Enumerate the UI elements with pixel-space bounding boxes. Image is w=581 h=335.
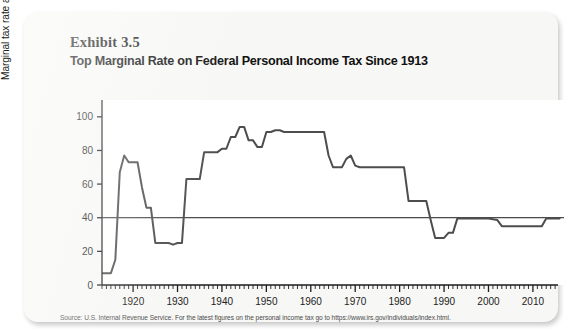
- x-tick-label: 1990: [433, 296, 456, 307]
- y-tick-label: 0: [87, 280, 93, 291]
- x-tick-label: 2000: [477, 296, 500, 307]
- y-tick-label: 20: [82, 246, 94, 257]
- source-note: Source: U.S. Internal Revenue Service. F…: [60, 314, 451, 321]
- y-tick-label: 40: [82, 212, 94, 223]
- x-tick-label: 1980: [389, 296, 412, 307]
- x-tick-label: 1950: [255, 296, 278, 307]
- tax-rate-line: [102, 127, 560, 273]
- chart-plot-area: [102, 100, 564, 285]
- exhibit-card: Exhibit 3.5 Top Marginal Rate on Federal…: [24, 12, 558, 322]
- exhibit-number-label: Exhibit 3.5: [70, 34, 140, 51]
- y-tick-label: 80: [82, 145, 94, 156]
- x-tick-label: 1940: [211, 296, 234, 307]
- y-tick-label: 100: [76, 111, 93, 122]
- y-tick-label: 60: [82, 179, 94, 190]
- exhibit-title: Top Marginal Rate on Federal Personal In…: [70, 54, 428, 68]
- x-tick-label: 1960: [300, 296, 323, 307]
- x-tick-label: 1930: [166, 296, 189, 307]
- x-tick-label: 2010: [522, 296, 545, 307]
- line-chart-svg: [102, 100, 564, 285]
- x-tick-label: 1970: [344, 296, 367, 307]
- exhibit-page: Exhibit 3.5 Top Marginal Rate on Federal…: [0, 0, 581, 335]
- y-axis-title: Marginal tax rate as percent of income: [0, 0, 11, 80]
- x-tick-label: 1920: [122, 296, 145, 307]
